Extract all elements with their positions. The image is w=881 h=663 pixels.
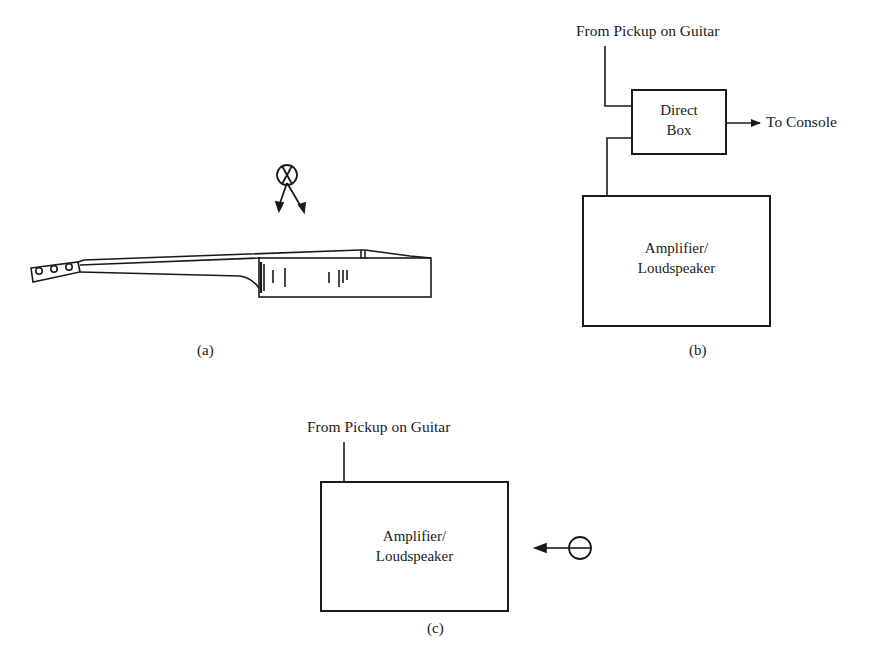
panel-c-caption: (c)	[427, 620, 444, 637]
microphone-cardioid-icon	[535, 537, 591, 559]
panel-b-caption: (b)	[689, 342, 707, 359]
pickup-signal-line	[605, 46, 632, 106]
guitar-side-view-icon	[31, 250, 431, 297]
amp-label-line2: Loudspeaker	[321, 546, 508, 566]
panel-b-amp-label: Amplifier/ Loudspeaker	[583, 238, 770, 278]
amp-label-line2: Loudspeaker	[583, 258, 770, 278]
amp-feed-line	[607, 138, 632, 196]
direct-box-label: Direct Box	[632, 100, 726, 140]
amp-label-line1: Amplifier/	[583, 238, 770, 258]
panel-b-input-label: From Pickup on Guitar	[576, 22, 719, 40]
panel-a	[31, 165, 431, 297]
amp-label-line1: Amplifier/	[321, 526, 508, 546]
microphone-figure-eight-icon	[276, 165, 305, 212]
panel-c-input-label: From Pickup on Guitar	[307, 418, 450, 436]
panel-a-caption: (a)	[197, 342, 214, 359]
panel-c-amp-label: Amplifier/ Loudspeaker	[321, 526, 508, 566]
panel-b	[583, 46, 770, 326]
to-console-label: To Console	[766, 113, 837, 131]
diagram-canvas: (a) From Pickup on Guitar Direct Box To …	[0, 0, 881, 663]
direct-box-line1: Direct	[632, 100, 726, 120]
direct-box-line2: Box	[632, 120, 726, 140]
